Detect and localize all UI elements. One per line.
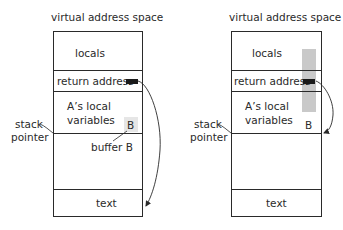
left-return-to-text-arrow: [138, 81, 160, 206]
right-return-to-buffer-arrow: [316, 81, 333, 133]
right-stack-pointer-leader: [218, 124, 231, 133]
connector-overlay: [0, 0, 343, 230]
left-buffer-b-leader: [113, 131, 127, 141]
left-stack-pointer-leader: [40, 124, 53, 133]
